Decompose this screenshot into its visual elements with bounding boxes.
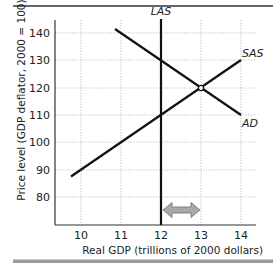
double-arrow-icon	[163, 203, 200, 218]
svg-text:120: 120	[29, 82, 50, 95]
svg-text:110: 110	[29, 109, 50, 122]
svg-text:140: 140	[29, 27, 50, 40]
svg-text:100: 100	[29, 136, 50, 149]
gridlines	[55, 20, 256, 225]
x-axis-title: Real GDP (trillions of 2000 dollars)	[82, 244, 263, 256]
equilibrium-point	[198, 85, 203, 90]
svg-text:80: 80	[36, 191, 50, 204]
sas-label: SAS	[242, 47, 264, 60]
svg-text:14: 14	[234, 229, 248, 242]
svg-text:11: 11	[114, 229, 128, 242]
y-tick-labels: 140 130 120 110 100 90 80	[29, 27, 50, 204]
svg-text:13: 13	[194, 229, 208, 242]
bottom-rule	[13, 260, 273, 264]
svg-text:130: 130	[29, 54, 50, 67]
svg-text:90: 90	[36, 164, 50, 177]
svg-text:12: 12	[154, 229, 168, 242]
sas-line	[71, 60, 241, 177]
svg-text:10: 10	[74, 229, 88, 242]
chart: 140 130 120 110 100 90 80 10 11 12 13 14…	[0, 0, 276, 269]
ad-label: AD	[241, 117, 258, 130]
x-tick-labels: 10 11 12 13 14	[74, 229, 248, 242]
las-label: LAS	[151, 5, 172, 18]
y-axis-title: Price level (GDP deflator, 2000 = 100)	[15, 0, 27, 201]
